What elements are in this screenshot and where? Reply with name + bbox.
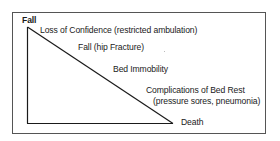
stage-complications: Complications of Bed Rest xyxy=(146,85,245,95)
stage-bed-immobility: Bed Immobility xyxy=(113,64,168,74)
start-label: Fall xyxy=(22,15,36,25)
stage-hip-fracture: Fall (hip Fracture) xyxy=(78,42,144,52)
stage-loss-of-confidence: Loss of Confidence (restricted ambulatio… xyxy=(40,25,197,35)
end-label: Death xyxy=(181,117,203,127)
diagram-canvas: Fall Loss of Confidence (restricted ambu… xyxy=(0,0,280,141)
stage-complications-detail: (pressure sores, pneumonia) xyxy=(153,96,260,106)
scan-speck xyxy=(164,51,165,52)
